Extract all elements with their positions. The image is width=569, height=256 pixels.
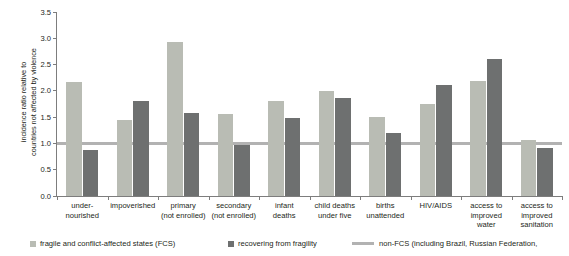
y-tick-label: 0.0: [40, 191, 51, 202]
y-tick-label: 0.5: [40, 164, 51, 175]
legend-swatch-marker: [30, 241, 36, 247]
y-tick-label: 3.0: [40, 33, 51, 44]
bar-recovering: [184, 113, 200, 196]
x-axis-label: access toimprovedsanitation: [506, 201, 569, 230]
x-tick-mark: [461, 196, 462, 200]
y-axis-title: incidence ratio relative to countries no…: [15, 7, 43, 197]
legend-label: fragile and conflict-affected states (FC…: [40, 238, 175, 249]
bar-fcs: [420, 104, 436, 196]
legend-rule-marker: [352, 242, 374, 245]
legend-swatch-marker: [228, 241, 234, 247]
legend-item[interactable]: non-FCS (including Brazil, Russian Feder…: [352, 238, 537, 249]
bar-fcs: [218, 114, 234, 196]
bar-group: [411, 12, 462, 196]
bar-recovering: [83, 150, 99, 196]
bar-fcs: [66, 82, 82, 196]
y-axis-title-line-1: incidence ratio relative to: [19, 62, 29, 142]
bar-group: [512, 12, 563, 196]
y-tick-label: 1.5: [40, 112, 51, 123]
x-tick-mark: [512, 196, 513, 200]
bar-chart: incidence ratio relative to countries no…: [0, 0, 569, 256]
chart-legend: fragile and conflict-affected states (FC…: [0, 238, 569, 256]
bar-fcs: [521, 140, 537, 196]
x-tick-mark: [57, 196, 58, 200]
x-tick-mark: [411, 196, 412, 200]
bar-group: [158, 12, 209, 196]
bar-recovering: [436, 85, 452, 196]
x-tick-mark: [562, 196, 563, 200]
x-axis-label-line: improved: [506, 211, 569, 221]
x-tick-mark: [209, 196, 210, 200]
bar-recovering: [537, 148, 553, 196]
bar-recovering: [285, 118, 301, 196]
y-tick-label: 2.5: [40, 59, 51, 70]
legend-label: recovering from fragility: [238, 238, 317, 249]
bar-group: [259, 12, 310, 196]
bar-recovering: [234, 145, 250, 196]
bar-recovering: [386, 133, 402, 196]
y-axis-title-line-2: countries not affected by violence: [29, 48, 39, 156]
x-tick-mark: [360, 196, 361, 200]
bar-fcs: [268, 101, 284, 196]
y-tick-label: 1.0: [40, 138, 51, 149]
bar-fcs: [117, 120, 133, 196]
legend-label: non-FCS (including Brazil, Russian Feder…: [379, 238, 537, 249]
y-tick-label: 2.0: [40, 85, 51, 96]
bar-fcs: [470, 81, 486, 196]
y-tick-label: 3.5: [40, 7, 51, 18]
x-tick-mark: [158, 196, 159, 200]
legend-item[interactable]: recovering from fragility: [228, 238, 317, 249]
bar-recovering: [487, 59, 503, 196]
bars-layer: [57, 12, 562, 196]
bar-fcs: [319, 91, 335, 196]
bar-group: [461, 12, 512, 196]
x-axis-labels: under-nourishedimpoverishedprimary(not e…: [57, 201, 562, 241]
legend-item[interactable]: fragile and conflict-affected states (FC…: [30, 238, 175, 249]
x-axis-label-line: sanitation: [506, 220, 569, 230]
bar-recovering: [133, 101, 149, 196]
bar-recovering: [335, 98, 351, 196]
x-axis-label-line: nourished: [51, 211, 114, 221]
x-axis-label-line: access to: [506, 201, 569, 211]
bar-group: [209, 12, 260, 196]
bar-group: [310, 12, 361, 196]
x-tick-mark: [310, 196, 311, 200]
bar-fcs: [369, 117, 385, 196]
bar-group: [57, 12, 108, 196]
x-axis-label-line: unattended: [354, 211, 417, 221]
bar-group: [108, 12, 159, 196]
plot-area: 0.00.51.01.52.02.53.03.5: [57, 12, 562, 196]
x-tick-mark: [259, 196, 260, 200]
bar-group: [360, 12, 411, 196]
bar-fcs: [167, 42, 183, 196]
x-tick-mark: [108, 196, 109, 200]
